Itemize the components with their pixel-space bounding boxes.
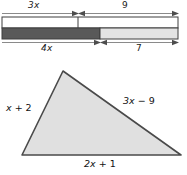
math-figure: 3x 9 4x 7 x + 2 3x − 9 2x + 1 bbox=[0, 0, 187, 175]
bottom-bar bbox=[2, 28, 178, 39]
top-bar-outline bbox=[2, 17, 178, 28]
triangle-label-left-side: x + 2 bbox=[6, 102, 32, 113]
label-top-left-3x: 3x bbox=[28, 0, 39, 10]
triangle-label-bottom-side: 2x + 1 bbox=[84, 158, 116, 169]
bottom-bar-light-segment bbox=[100, 28, 178, 39]
triangle-label-right-side: 3x − 9 bbox=[123, 95, 155, 106]
label-top-right-9: 9 bbox=[122, 0, 128, 10]
bottom-bar-dark-segment bbox=[2, 28, 100, 39]
triangle-diagram: x + 2 3x − 9 2x + 1 bbox=[0, 45, 187, 175]
top-measure-arrows bbox=[2, 11, 179, 16]
triangle-shape bbox=[22, 71, 181, 155]
top-bar bbox=[2, 17, 178, 28]
